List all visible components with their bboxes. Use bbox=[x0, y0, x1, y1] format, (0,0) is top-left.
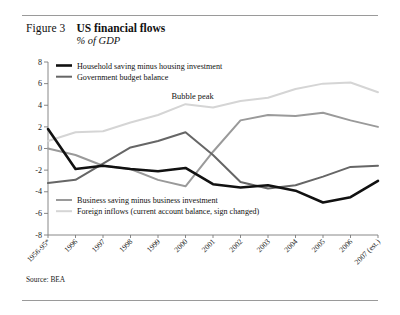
x-axis: 1956-95*19961997199819992000200120022003… bbox=[25, 235, 382, 266]
series-line bbox=[48, 129, 378, 203]
x-tick-label: 2001 bbox=[200, 237, 217, 254]
x-tick-label: 1997 bbox=[90, 237, 107, 254]
legend-item-label: Foreign inflows (current account balance… bbox=[77, 207, 260, 216]
legend-top: Household saving minus housing investmen… bbox=[56, 62, 223, 82]
legend-item-label: Government budget balance bbox=[77, 73, 169, 82]
x-tick-label: 2007 (est.) bbox=[353, 237, 383, 267]
y-tick-label: 4 bbox=[38, 101, 42, 110]
y-tick-label: -2 bbox=[35, 166, 42, 175]
x-tick-label: 2005 bbox=[310, 237, 327, 254]
legend-item-label: Household saving minus housing investmen… bbox=[77, 62, 223, 71]
y-tick-label: 6 bbox=[38, 79, 42, 88]
x-tick-label: 1999 bbox=[145, 237, 162, 254]
legend-item-label: Business saving minus business investmen… bbox=[77, 196, 218, 205]
line-chart: 86420-2-4-6-8 1956-95*199619971998199920… bbox=[0, 0, 400, 315]
chart-plot-area: 86420-2-4-6-8 1956-95*199619971998199920… bbox=[0, 0, 400, 315]
x-tick-label: 2003 bbox=[255, 237, 272, 254]
annotation-bubble-peak: Bubble peak bbox=[172, 92, 215, 101]
x-tick-label: 1998 bbox=[117, 237, 134, 254]
source-note: Source: BEA bbox=[26, 275, 65, 284]
x-tick-label: 1996 bbox=[62, 237, 79, 254]
y-tick-label: 8 bbox=[38, 58, 42, 67]
y-tick-label: -6 bbox=[35, 209, 42, 218]
y-tick-label: 2 bbox=[38, 123, 42, 132]
x-tick-label: 1956-95* bbox=[25, 237, 52, 264]
y-axis: 86420-2-4-6-8 bbox=[35, 58, 48, 240]
chart-annotations: Bubble peak bbox=[172, 92, 215, 101]
x-tick-label: 2004 bbox=[282, 237, 299, 254]
y-tick-label: -8 bbox=[35, 231, 42, 240]
x-tick-label: 2000 bbox=[172, 237, 189, 254]
figure-container: Figure 3 US financial flows % of GDP 864… bbox=[0, 0, 400, 315]
y-tick-label: 0 bbox=[38, 144, 42, 153]
legend-bottom: Business saving minus business investmen… bbox=[56, 196, 260, 216]
y-tick-label: -4 bbox=[35, 187, 42, 196]
x-tick-label: 2006 bbox=[337, 237, 354, 254]
x-tick-label: 2002 bbox=[227, 237, 244, 254]
series-line bbox=[48, 132, 378, 188]
